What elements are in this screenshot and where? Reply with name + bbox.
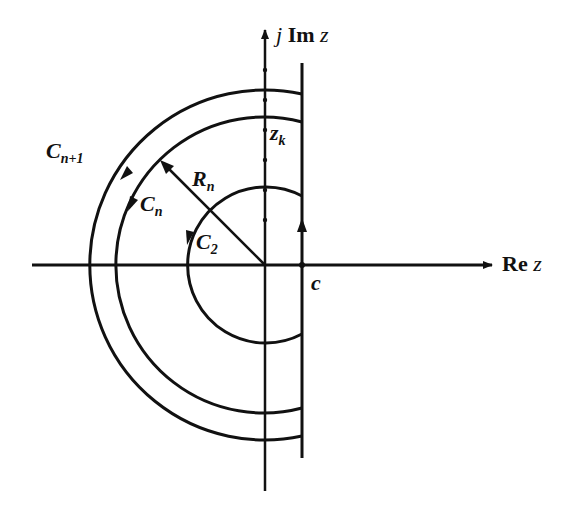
label-c-point: c	[311, 272, 321, 294]
label-c-n-plus-1-main: C	[46, 138, 61, 163]
label-c-n: Cn	[140, 193, 162, 219]
label-re-z: z	[533, 251, 542, 276]
label-im-z: z	[320, 22, 329, 47]
label-c-n-main: C	[140, 191, 155, 216]
label-j: j	[276, 22, 282, 47]
diagram-svg	[0, 0, 568, 511]
arrow-c-n-icon	[128, 196, 138, 211]
label-c-point-text: c	[311, 270, 321, 295]
label-r-n: Rn	[192, 168, 214, 194]
point-c-dot	[299, 262, 305, 268]
label-r-n-sub: n	[207, 179, 215, 194]
label-imaginary-axis: j Im z	[276, 24, 329, 46]
label-z-k: zk	[270, 122, 286, 148]
label-im: Im	[288, 22, 315, 47]
label-c-n-plus-1-sub: n+1	[61, 151, 84, 166]
label-re: Re	[502, 251, 528, 276]
label-c-2: C2	[196, 231, 218, 257]
contour-diagram: j Im z Re z Cn+1 Cn Rn C2 zk c	[0, 0, 568, 511]
label-z-k-sub: k	[279, 133, 286, 148]
label-z-k-main: z	[270, 120, 279, 145]
label-c-n-sub: n	[155, 204, 163, 219]
label-c-n-plus-1: Cn+1	[46, 140, 83, 166]
arrow-up-icon	[297, 218, 307, 232]
label-r-n-main: R	[192, 166, 207, 191]
label-real-axis: Re z	[502, 253, 542, 275]
arrow-c-n-plus-1-icon	[120, 166, 133, 180]
label-c-2-sub: 2	[211, 242, 218, 257]
label-c-2-main: C	[196, 229, 211, 254]
